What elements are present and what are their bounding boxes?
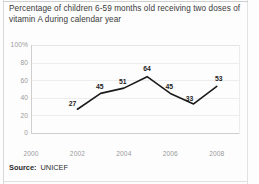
x-axis-tick-label: 2002 bbox=[62, 150, 92, 157]
data-point-label: 51 bbox=[115, 78, 131, 85]
x-axis-tick-labels: 20002002200420062008 bbox=[0, 150, 259, 162]
x-axis-tick-label: 2006 bbox=[155, 150, 185, 157]
data-point-label: 53 bbox=[211, 75, 227, 82]
source-value: UNICEF bbox=[41, 163, 69, 172]
source-label: Source: bbox=[9, 163, 37, 172]
chart-page: Percentage of children 6-59 months old r… bbox=[0, 0, 259, 184]
data-point-label: 33 bbox=[182, 95, 198, 102]
x-axis-tick-label: 2004 bbox=[109, 150, 139, 157]
data-point-label: 45 bbox=[92, 83, 108, 90]
x-axis-tick-label: 2008 bbox=[202, 150, 232, 157]
data-point-label: 64 bbox=[139, 65, 155, 72]
data-point-label: 27 bbox=[64, 100, 80, 107]
x-axis-tick-label: 2000 bbox=[16, 150, 46, 157]
source-line: Source:UNICEF bbox=[9, 163, 68, 172]
data-point-label: 45 bbox=[161, 83, 177, 90]
